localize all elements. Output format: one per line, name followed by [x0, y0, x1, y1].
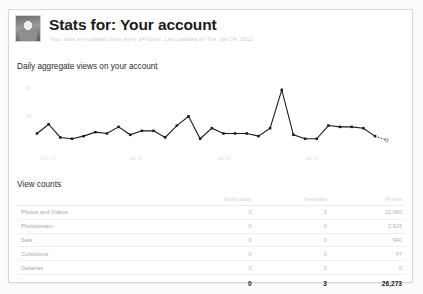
total-so-far-today: 0 [181, 274, 256, 290]
y-tick-label: 20 [26, 114, 32, 119]
cell-all-time: 0 [331, 261, 406, 275]
x-tick-label: Dec 26 [41, 156, 56, 161]
chart-data-point[interactable] [47, 123, 50, 126]
chart-data-point[interactable] [152, 130, 155, 133]
chart-line [37, 90, 375, 139]
chart-data-point[interactable] [141, 130, 144, 133]
chart-data-point[interactable] [106, 132, 109, 135]
chart-data-point[interactable] [234, 132, 237, 135]
row-label: Photostream [17, 219, 181, 233]
chart-data-point[interactable] [59, 136, 62, 139]
cell-so-far-today: 0 [181, 233, 256, 247]
x-tick-label: Jan 02 [129, 156, 143, 161]
chart-data-point[interactable] [211, 127, 214, 130]
chart-data-point[interactable] [71, 138, 74, 141]
chart-data-point[interactable] [292, 134, 295, 137]
chart-data-point[interactable] [246, 132, 249, 135]
column-header-all-time: All time [331, 194, 406, 206]
y-tick-label: 40 [26, 86, 32, 91]
table-row: Photos and Videos0322,660 [17, 206, 406, 220]
page-subtitle: Your stats are updated once every 24 hou… [50, 36, 253, 42]
cell-so-far-today: 0 [181, 219, 256, 233]
page-root: Stats for: Your account Your stats are u… [0, 0, 423, 294]
chart-data-point[interactable] [164, 136, 167, 139]
total-label [17, 274, 181, 290]
row-label: Sets [17, 233, 181, 247]
cell-all-time: 47 [331, 247, 406, 261]
cell-yesterday: 0 [256, 247, 331, 261]
chart-data-point[interactable] [222, 132, 225, 135]
chart-svg: 40 20 Dec 26 Jan 02 Jan 09 Jan 16 [17, 74, 406, 164]
chart-data-point[interactable] [269, 127, 272, 130]
chart-data-point[interactable] [362, 127, 365, 130]
chart-endpoint-marker[interactable] [385, 139, 388, 142]
column-header-so-far-today: So far today [181, 194, 256, 206]
row-label: Galleries [17, 261, 181, 275]
chart-data-point[interactable] [327, 124, 330, 127]
table-row: Galleries000 [17, 261, 406, 275]
chart-data-point[interactable] [339, 126, 342, 129]
chart-title: Daily aggregate views on your account [17, 62, 158, 71]
total-all-time: 26,273 [331, 274, 406, 290]
x-tick-label: Jan 16 [305, 156, 319, 161]
table-header-row: So far today Yesterday All time [17, 194, 406, 206]
daily-views-chart[interactable]: 40 20 Dec 26 Jan 02 Jan 09 Jan 16 [17, 74, 406, 164]
view-counts-table: So far today Yesterday All time Photos a… [17, 194, 406, 290]
chart-data-point[interactable] [117, 126, 120, 129]
column-header-yesterday: Yesterday [256, 194, 331, 206]
chart-data-point[interactable] [176, 124, 179, 127]
cell-yesterday: 0 [256, 233, 331, 247]
stats-card: Stats for: Your account Your stats are u… [8, 9, 413, 283]
chart-data-point[interactable] [350, 126, 353, 129]
table-title: View counts [17, 180, 61, 189]
chart-data-point[interactable] [257, 135, 260, 138]
cell-all-time: 2,626 [331, 219, 406, 233]
cell-yesterday: 0 [256, 261, 331, 275]
chart-data-point[interactable] [129, 134, 132, 137]
chart-data-point[interactable] [315, 138, 318, 141]
chart-data-point[interactable] [82, 135, 85, 138]
header: Stats for: Your account Your stats are u… [9, 10, 412, 54]
table-row: Photostream002,626 [17, 219, 406, 233]
chart-data-point[interactable] [187, 115, 190, 118]
table-body: Photos and Videos0322,660Photostream002,… [17, 206, 406, 291]
chart-data-point[interactable] [94, 131, 97, 134]
chart-data-point[interactable] [304, 138, 307, 141]
row-label: Collections [17, 247, 181, 261]
row-label: Photos and Videos [17, 206, 181, 220]
table-row: Sets00940 [17, 233, 406, 247]
cell-all-time: 22,660 [331, 206, 406, 220]
cell-yesterday: 0 [256, 219, 331, 233]
cell-all-time: 940 [331, 233, 406, 247]
avatar[interactable] [15, 15, 41, 42]
cell-yesterday: 3 [256, 206, 331, 220]
page-title: Stats for: Your account [49, 16, 217, 34]
chart-data-point[interactable] [281, 89, 284, 92]
cell-so-far-today: 0 [181, 261, 256, 275]
x-tick-label: Jan 09 [217, 156, 231, 161]
cell-so-far-today: 0 [181, 247, 256, 261]
table-row: Collections0047 [17, 247, 406, 261]
column-header-label [17, 194, 181, 206]
chart-data-point[interactable] [199, 138, 202, 141]
chart-data-point[interactable] [36, 132, 39, 135]
total-yesterday: 3 [256, 274, 331, 290]
chart-plot [36, 89, 388, 142]
cell-so-far-today: 0 [181, 206, 256, 220]
table-total-row: 0326,273 [17, 274, 406, 290]
